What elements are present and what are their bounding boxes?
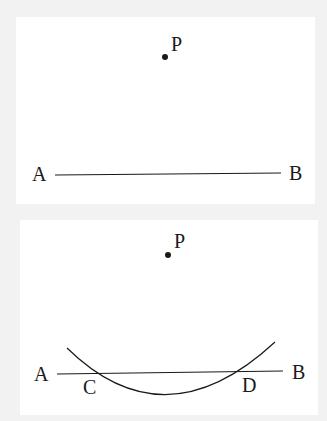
point-d-label: D — [242, 374, 256, 396]
bottom-figure: P A B C D — [34, 230, 305, 398]
point-a-label: A — [32, 163, 47, 185]
point-p-label: P — [171, 33, 182, 55]
construction-diagram: P A B P A B C D — [0, 0, 327, 421]
point-p-label: P — [174, 230, 185, 252]
point-a-label: A — [34, 363, 49, 385]
point-c-label: C — [83, 376, 96, 398]
point-b-label: B — [292, 361, 305, 383]
point-p-dot — [162, 54, 168, 60]
top-figure: P A B — [32, 33, 302, 185]
point-p-dot — [165, 252, 171, 258]
point-b-label: B — [289, 162, 302, 184]
line-ab — [55, 173, 281, 175]
